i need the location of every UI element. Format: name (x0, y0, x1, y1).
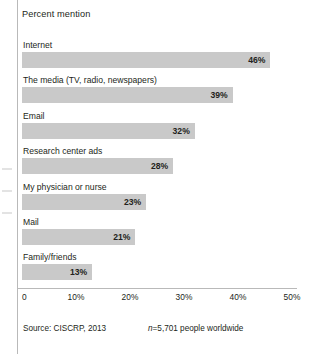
x-axis: 010%20%30%40%50% (22, 288, 315, 310)
bar: 21% (22, 229, 135, 245)
x-axis-tick-label: 20% (122, 292, 139, 302)
bar-chart-figure: Percent mention Internet46%The media (TV… (22, 0, 315, 354)
bar-category-label: Email (23, 111, 45, 122)
sample-size-rest: =5,701 people worldwide (153, 324, 244, 333)
bar-value-label: 28% (151, 158, 168, 174)
bar-value-label: 39% (210, 87, 227, 103)
bar-category-label: My physician or nurse (23, 182, 107, 193)
x-axis-tick-label: 30% (176, 292, 193, 302)
bar-category-label: Research center ads (23, 146, 102, 157)
sample-size-note: n=5,701 people worldwide (148, 324, 243, 333)
x-axis-line (17, 288, 297, 289)
x-axis-tick-label: 10% (68, 292, 85, 302)
margin-bleed-line (2, 168, 12, 170)
bar-value-label: 32% (173, 123, 190, 139)
bar: 23% (22, 194, 146, 210)
margin-bleed-line (2, 190, 12, 192)
plot-area: Internet46%The media (TV, radio, newspap… (22, 40, 292, 288)
bar-category-label: Family/friends (23, 252, 76, 263)
bar: 13% (22, 264, 92, 280)
x-axis-tick-label: 50% (284, 292, 301, 302)
bar-value-label: 21% (113, 229, 130, 245)
x-axis-tick-label: 40% (230, 292, 247, 302)
margin-bleed-line (2, 212, 12, 214)
bar-value-label: 13% (70, 264, 87, 280)
source-note: Source: CISCRP, 2013 (23, 324, 106, 333)
bar: 39% (22, 87, 233, 103)
chart-title: Percent mention (22, 9, 90, 19)
bar-value-label: 46% (248, 52, 265, 68)
bar: 32% (22, 123, 195, 139)
figure-left-rule (17, 0, 18, 354)
bar-category-label: Internet (23, 40, 52, 51)
bar-category-label: The media (TV, radio, newspapers) (23, 75, 157, 86)
bar-category-label: Mail (23, 217, 39, 228)
bar-value-label: 23% (124, 194, 141, 210)
margin-text-bleed (2, 168, 12, 214)
bar: 28% (22, 158, 173, 174)
bar: 46% (22, 52, 270, 68)
figure-footer: Source: CISCRP, 2013 n=5,701 people worl… (22, 324, 307, 338)
x-axis-tick-label: 0 (22, 292, 27, 302)
